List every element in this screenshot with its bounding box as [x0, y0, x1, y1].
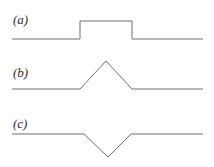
downward-triangular-pulse-path — [12, 134, 203, 157]
panel-a-waveform — [0, 0, 214, 56]
upward-triangular-pulse-path — [12, 61, 203, 89]
panel-b-waveform — [0, 55, 214, 111]
panel-a: (a) — [0, 0, 214, 56]
panel-b: (b) — [0, 55, 214, 111]
rectangular-pulse-path — [12, 21, 203, 39]
panel-c-waveform — [0, 110, 214, 167]
waveform-figure: (a) (b) (c) — [0, 0, 214, 167]
panel-c: (c) — [0, 110, 214, 167]
